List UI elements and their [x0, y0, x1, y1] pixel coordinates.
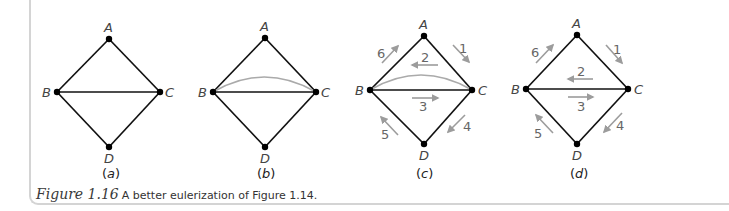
sublabel-b: (b) [257, 166, 275, 181]
vertex-label-d: D [572, 148, 582, 163]
vertex-label-b: B [198, 85, 207, 100]
vertex-label-d: D [260, 151, 270, 166]
edge-a-c [109, 39, 160, 92]
vertex-b [54, 89, 60, 95]
edge-a-b [526, 35, 577, 89]
graph-d: A B C D 6 1 2 3 4 5 (d) [511, 16, 644, 181]
vertex-label-b: B [355, 83, 364, 98]
duplicate-edge-b-c [370, 75, 472, 90]
vertex-b [523, 86, 529, 92]
vertex-a [106, 36, 112, 42]
vertex-label-c: C [321, 85, 331, 100]
step-label-3: 3 [577, 99, 585, 114]
vertex-d [574, 141, 580, 147]
step-label-2: 2 [577, 64, 585, 79]
vertex-c [625, 86, 631, 92]
vertex-label-d: D [104, 151, 114, 166]
edge-c-d [265, 92, 316, 147]
caption-text: A better eulerization of Figure 1.14. [122, 189, 318, 202]
step-label-6: 6 [531, 45, 539, 60]
vertex-label-a: A [418, 17, 428, 32]
vertex-a [262, 35, 268, 41]
graph-b: A B C D (b) [198, 19, 331, 181]
vertex-d [106, 144, 112, 150]
sublabel-c: (c) [416, 166, 433, 181]
vertex-d [421, 141, 427, 147]
step-label-1: 1 [613, 42, 621, 57]
edge-a-b [213, 38, 265, 92]
vertex-label-b: B [42, 85, 51, 100]
figure-caption: Figure 1.16A better eulerization of Figu… [36, 184, 317, 203]
step-label-5: 5 [381, 127, 389, 142]
vertex-label-a: A [103, 20, 113, 35]
graph-a: A B C D (a) [42, 20, 175, 181]
sublabel-a: (a) [102, 166, 120, 181]
vertex-c [313, 89, 319, 95]
vertex-c [157, 89, 163, 95]
figure-number: Figure 1.16 [36, 186, 119, 202]
sublabel-d: (d) [570, 166, 588, 181]
vertex-label-a: A [571, 16, 581, 31]
vertex-label-c: C [165, 85, 175, 100]
vertex-label-c: C [478, 83, 488, 98]
edge-b-d [213, 92, 265, 147]
graph-c: A B C D 6 1 2 3 4 5 (c) [355, 17, 488, 181]
vertex-label-c: C [634, 82, 644, 97]
edge-b-d [57, 92, 109, 147]
vertex-d [262, 144, 268, 150]
step-label-1: 1 [459, 41, 467, 56]
vertex-label-b: B [511, 82, 520, 97]
step-label-4: 4 [616, 118, 624, 133]
step-label-4: 4 [463, 119, 471, 134]
duplicate-edge-b-c [213, 77, 316, 92]
edge-a-b [57, 39, 109, 92]
edge-a-c [265, 38, 316, 92]
vertex-c [469, 87, 475, 93]
step-label-3: 3 [419, 99, 427, 114]
vertex-a [421, 33, 427, 39]
edge-c-d [109, 92, 160, 147]
vertex-a [574, 32, 580, 38]
step-label-2: 2 [421, 50, 429, 65]
edge-a-b [370, 36, 424, 90]
step-label-5: 5 [534, 126, 542, 141]
vertex-label-d: D [419, 148, 429, 163]
step-label-6: 6 [377, 46, 385, 61]
vertex-b [367, 87, 373, 93]
vertex-b [210, 89, 216, 95]
vertex-label-a: A [259, 19, 269, 34]
